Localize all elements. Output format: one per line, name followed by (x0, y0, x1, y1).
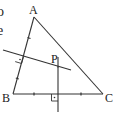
right-angle-marker-ab (15, 57, 23, 64)
right-angle-dot-bc (54, 97, 56, 99)
vertex-label-c: C (105, 91, 113, 105)
vertex-label-a: A (29, 3, 38, 17)
triangle-diagram: A B C P (0, 0, 116, 116)
vertex-label-b: B (2, 91, 10, 105)
side-ac (34, 17, 103, 94)
perpendicular-bisector-ab (3, 50, 71, 70)
point-p-marker (57, 66, 58, 67)
right-angle-dot-ab (19, 59, 21, 61)
point-label-p: P (51, 52, 58, 66)
tick-mark-ab-lower (16, 78, 19, 79)
